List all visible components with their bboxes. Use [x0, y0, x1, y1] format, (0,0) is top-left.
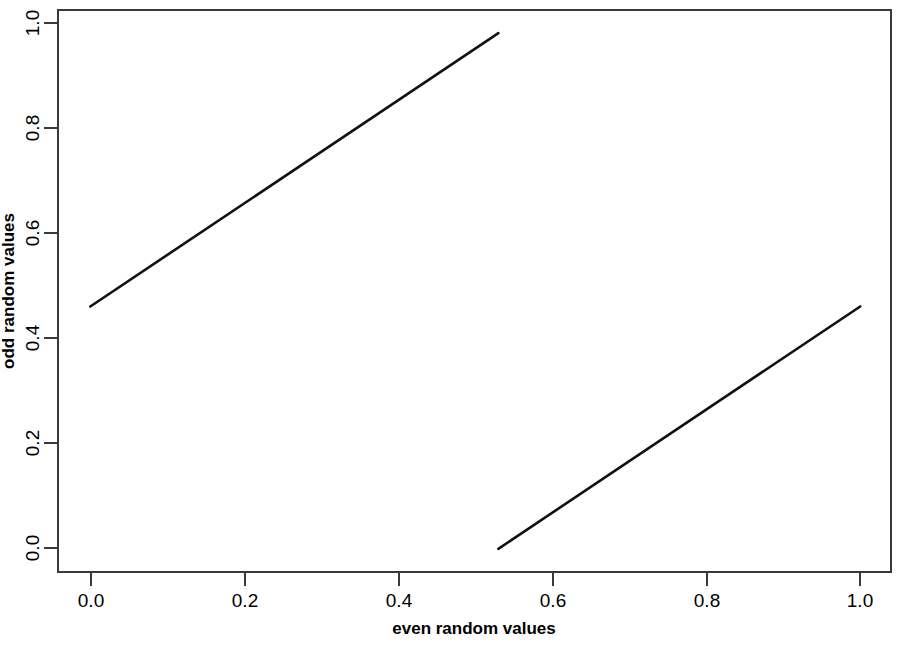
y-tick-label-5: 1.0: [22, 10, 43, 36]
x-axis-title: even random values: [392, 619, 555, 638]
chart-svg: 0.0 0.2 0.4 0.6 0.8 1.0 0.0 0.2 0.4 0.6 …: [0, 0, 897, 650]
x-tick-label-5: 1.0: [847, 590, 873, 611]
x-axis-tick-labels: 0.0 0.2 0.4 0.6 0.8 1.0: [78, 590, 873, 611]
x-tick-label-2: 0.4: [386, 590, 413, 611]
y-axis-tick-labels: 0.0 0.2 0.4 0.6 0.8 1.0: [22, 10, 43, 561]
chart-container: 0.0 0.2 0.4 0.6 0.8 1.0 0.0 0.2 0.4 0.6 …: [0, 0, 897, 650]
x-tick-label-4: 0.8: [694, 590, 720, 611]
y-axis-ticks: [44, 23, 58, 548]
data-line-lower-segment: [498, 306, 860, 548]
data-line-upper-segment: [90, 33, 498, 306]
y-tick-label-4: 0.8: [22, 115, 43, 141]
x-tick-label-3: 0.6: [540, 590, 566, 611]
y-tick-label-2: 0.4: [22, 324, 43, 351]
y-tick-label-1: 0.2: [22, 430, 43, 456]
x-tick-label-0: 0.0: [78, 590, 104, 611]
y-tick-label-3: 0.6: [22, 220, 43, 246]
y-tick-label-0: 0.0: [22, 535, 43, 561]
y-axis-title: odd random values: [0, 213, 18, 369]
data-series-group: [90, 33, 860, 549]
x-tick-label-1: 0.2: [232, 590, 258, 611]
x-axis-ticks: [91, 572, 860, 586]
plot-frame: [58, 10, 891, 572]
